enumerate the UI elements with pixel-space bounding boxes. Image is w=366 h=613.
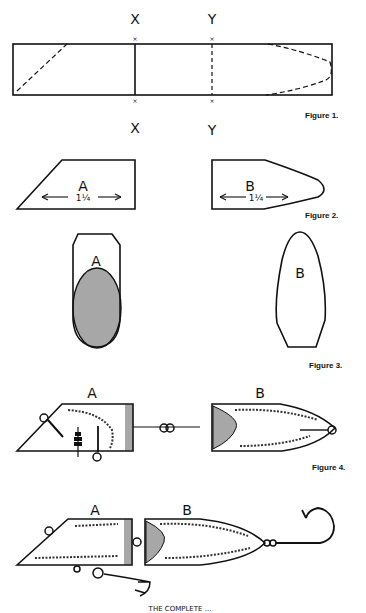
shading — [75, 524, 118, 526]
screw-eye-icon — [74, 566, 80, 572]
figure-3-caption: Figure 3. — [309, 361, 342, 370]
figure-3: A B Figure 3. — [73, 232, 342, 370]
part-b-label: B — [295, 265, 305, 281]
cut-label-x-top: X — [130, 11, 140, 27]
part-b-dimension: 1¼ — [249, 193, 264, 203]
part-b-label: B — [182, 502, 192, 518]
screw-eye-icon — [93, 568, 103, 578]
shading — [240, 436, 310, 446]
figure-4-caption: Figure 4. — [312, 463, 345, 472]
link-icon — [166, 424, 174, 432]
cut-line-b-taper — [266, 44, 331, 95]
part-b-joint-face — [146, 521, 165, 563]
figure-5-caption: THE COMPLETE ... — [148, 605, 212, 613]
single-hook-icon — [276, 508, 334, 543]
figure-4: A B Figure 4. — [17, 385, 345, 472]
part-b-front-view — [276, 232, 325, 347]
cut-mark-icon: × — [209, 35, 214, 42]
part-a-label: A — [91, 253, 101, 269]
screw-eye-icon — [93, 453, 101, 461]
part-a-label: A — [87, 385, 97, 401]
part-a-hollow — [73, 268, 121, 348]
part-b-label: B — [255, 385, 265, 401]
link-icon — [133, 538, 141, 546]
part-b-joint-face — [213, 406, 237, 449]
cut-label-x-bottom: X — [130, 120, 140, 136]
screw-eye-shank — [48, 420, 63, 437]
treble-hook-icon — [104, 574, 150, 596]
cut-mark-icon: × — [209, 97, 214, 104]
figure-1-caption: Figure 1. — [305, 111, 338, 120]
figure-5: A B THE COMPLETE ... — [17, 502, 334, 613]
screw-eye-icon — [45, 527, 53, 535]
part-b-profile — [212, 160, 324, 209]
figure-2: A 1¼ B 1¼ Figure 2. — [17, 160, 338, 220]
shading — [165, 548, 250, 558]
part-a-body — [17, 519, 132, 565]
lure-diagram: X Y × × × × X Y Figure 1. A 1¼ B 1¼ Figu… — [0, 0, 366, 613]
part-a-dimension: 1¼ — [76, 193, 91, 203]
wood-block — [13, 44, 332, 95]
cut-mark-icon: × — [132, 97, 137, 104]
shading — [35, 556, 118, 558]
cut-line-a-bevel — [17, 44, 67, 91]
part-a-joint-face — [125, 404, 133, 451]
part-a-joint-face — [124, 519, 132, 565]
screw-eye-icon — [40, 414, 48, 422]
figure-2-caption: Figure 2. — [305, 211, 338, 220]
part-a-label: A — [90, 502, 100, 518]
figure-1: X Y × × × × X Y Figure 1. — [13, 11, 338, 138]
cut-label-y-bottom: Y — [207, 122, 217, 138]
part-a-label: A — [78, 178, 88, 194]
cut-label-y-top: Y — [207, 11, 217, 27]
cut-mark-icon: × — [132, 35, 137, 42]
link-icon — [270, 540, 276, 546]
part-b-label: B — [245, 178, 255, 194]
